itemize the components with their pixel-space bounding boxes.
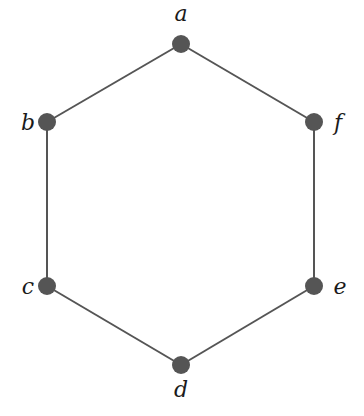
edges: [47, 44, 314, 365]
edge-f-a: [181, 44, 314, 122]
node-b: [38, 113, 56, 131]
edge-d-e: [181, 286, 314, 365]
node-label-e: e: [333, 274, 346, 299]
hexagon-graph: abcdef: [0, 0, 364, 416]
node-d: [172, 356, 190, 374]
node-labels: abcdef: [21, 1, 347, 402]
nodes: [38, 35, 323, 374]
node-e: [305, 277, 323, 295]
node-label-a: a: [174, 1, 187, 26]
node-f: [305, 113, 323, 131]
node-label-c: c: [22, 274, 34, 299]
node-label-f: f: [332, 110, 346, 135]
node-label-d: d: [174, 377, 188, 402]
edge-a-b: [47, 44, 181, 122]
node-a: [172, 35, 190, 53]
node-label-b: b: [21, 110, 35, 135]
node-c: [38, 277, 56, 295]
edge-c-d: [47, 286, 181, 365]
